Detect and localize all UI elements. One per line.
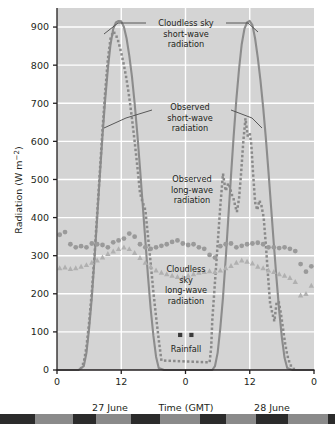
observed-short-wave-dot — [217, 236, 220, 239]
y-tick-label-0: 0 — [43, 364, 49, 375]
observed-short-wave-dot — [103, 111, 106, 114]
observed-short-wave-dot — [240, 169, 243, 172]
observed-short-wave-dot — [146, 226, 149, 229]
observed-short-wave-dot — [251, 156, 254, 159]
observed-long-wave-marker — [234, 245, 239, 250]
observed-long-wave-marker — [143, 245, 148, 250]
observed-short-wave-dot — [267, 278, 270, 281]
observed-long-wave-marker — [255, 240, 260, 245]
observed-short-wave-dot — [217, 240, 220, 243]
observed-short-wave-dot — [122, 62, 125, 65]
observed-short-wave-dot — [144, 212, 147, 215]
observed-short-wave-dot — [249, 133, 252, 136]
observed-long-wave-marker — [293, 249, 298, 254]
observed-short-wave-dot — [85, 349, 88, 352]
observed-short-wave-dot — [154, 308, 157, 311]
observed-short-wave-dot — [225, 188, 228, 191]
observed-short-wave-dot — [256, 207, 259, 210]
observed-short-wave-dot — [100, 152, 103, 155]
observed-short-wave-dot — [135, 153, 138, 156]
observed-short-wave-dot — [111, 33, 114, 36]
observed-long-wave-marker — [68, 242, 73, 247]
observed-long-wave-marker — [154, 245, 159, 250]
observed-short-wave-dot — [106, 69, 109, 72]
observed-short-wave-dot — [92, 276, 95, 279]
annotation-observed-short-wave-line-0: Observed — [170, 102, 209, 112]
observed-long-wave-marker — [229, 241, 234, 246]
y-axis-title-superscript: −2 — [13, 150, 21, 160]
observed-short-wave-dot — [263, 218, 266, 221]
observed-short-wave-dot — [103, 102, 106, 105]
observed-short-wave-dot — [274, 316, 277, 319]
annotation-cloudless-sky-long-wave: Cloudlessskylong-waveradiation — [165, 264, 207, 306]
observed-long-wave-marker — [266, 245, 271, 250]
observed-short-wave-dot — [128, 94, 131, 97]
bottom-border-strip — [0, 414, 335, 424]
observed-short-wave-dot — [286, 351, 289, 354]
observed-short-wave-dot — [103, 97, 106, 100]
observed-short-wave-dot — [223, 183, 226, 186]
observed-short-wave-dot — [251, 161, 254, 164]
observed-short-wave-dot — [283, 338, 286, 341]
observed-long-wave-marker — [261, 242, 266, 247]
observed-short-wave-dot — [239, 187, 242, 190]
observed-short-wave-dot — [93, 258, 96, 261]
y-axis-title-tail: ) — [13, 146, 24, 150]
y-tick-label-200: 200 — [31, 288, 49, 299]
observed-short-wave-dot — [274, 312, 277, 315]
observed-short-wave-dot — [149, 253, 152, 256]
observed-long-wave-marker — [73, 245, 78, 250]
observed-short-wave-dot — [104, 88, 107, 91]
observed-short-wave-dot — [239, 182, 242, 185]
observed-short-wave-dot — [251, 165, 254, 168]
observed-short-wave-dot — [182, 360, 185, 363]
observed-short-wave-dot — [275, 307, 278, 310]
observed-short-wave-dot — [136, 167, 139, 170]
observed-short-wave-dot — [134, 144, 137, 147]
observed-short-wave-dot — [84, 354, 87, 357]
x-axis-title: Time (GMT) — [157, 402, 213, 413]
annotation-observed-long-wave: Observedlong-waveradiation — [171, 174, 213, 205]
rainfall-marker — [178, 333, 182, 337]
observed-short-wave-dot — [132, 130, 135, 133]
observed-short-wave-dot — [145, 221, 148, 224]
observed-short-wave-dot — [82, 363, 85, 366]
observed-short-wave-dot — [105, 74, 108, 77]
observed-short-wave-dot — [211, 332, 214, 335]
observed-short-wave-dot — [262, 214, 265, 217]
observed-long-wave-marker — [84, 245, 89, 250]
observed-short-wave-dot — [97, 193, 100, 196]
observed-short-wave-dot — [85, 345, 88, 348]
observed-short-wave-dot — [253, 188, 256, 191]
observed-short-wave-dot — [123, 67, 126, 70]
observed-short-wave-dot — [213, 286, 216, 289]
observed-short-wave-dot — [220, 199, 223, 202]
observed-long-wave-marker — [138, 242, 143, 247]
observed-short-wave-dot — [153, 299, 156, 302]
y-tick-label-300: 300 — [31, 250, 49, 261]
observed-short-wave-dot — [142, 203, 145, 206]
observed-short-wave-dot — [133, 135, 136, 138]
observed-short-wave-dot — [92, 267, 95, 270]
observed-short-wave-dot — [135, 158, 138, 161]
observed-short-wave-dot — [249, 138, 252, 141]
observed-short-wave-dot — [158, 345, 161, 348]
observed-short-wave-dot — [196, 361, 199, 364]
observed-short-wave-dot — [245, 125, 248, 128]
observed-short-wave-dot — [93, 253, 96, 256]
observed-short-wave-dot — [102, 125, 105, 128]
observed-short-wave-dot — [219, 208, 222, 211]
observed-short-wave-dot — [101, 138, 104, 141]
observed-short-wave-dot — [108, 47, 111, 50]
observed-long-wave-marker — [57, 232, 62, 237]
observed-short-wave-dot — [253, 193, 256, 196]
observed-short-wave-dot — [152, 285, 155, 288]
observed-short-wave-dot — [125, 76, 128, 79]
observed-short-wave-dot — [126, 80, 129, 83]
observed-short-wave-dot — [284, 342, 287, 345]
annotation-cloudless-sky-long-wave-line-0: Cloudless — [166, 264, 205, 274]
observed-short-wave-dot — [259, 201, 262, 204]
observed-short-wave-dot — [104, 92, 107, 95]
observed-short-wave-dot — [218, 222, 221, 225]
observed-short-wave-dot — [109, 37, 112, 40]
